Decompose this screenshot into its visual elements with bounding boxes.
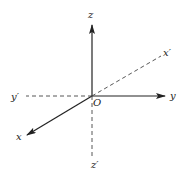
z-label: z xyxy=(87,9,94,20)
z-neg-label: z′ xyxy=(90,159,99,170)
x-axis xyxy=(27,96,92,135)
axes-diagram: z z′ y y′ x x′ O xyxy=(0,0,188,181)
origin-label: O xyxy=(93,97,101,108)
x-neg-label: x′ xyxy=(163,47,172,58)
x-label: x xyxy=(16,131,22,142)
x-neg-axis xyxy=(92,56,161,96)
y-neg-label: y′ xyxy=(10,91,20,102)
y-label: y xyxy=(169,90,176,101)
